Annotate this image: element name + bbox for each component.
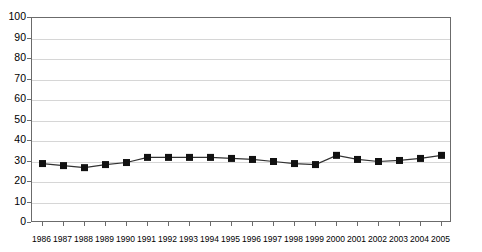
data-point-marker (186, 154, 193, 161)
x-axis-tick-mark (252, 222, 253, 226)
x-axis-tick-label: 2003 (388, 235, 410, 244)
x-axis-tick-label: 1989 (94, 235, 116, 244)
x-axis-tick-label: 1991 (136, 235, 158, 244)
data-point-marker (102, 161, 109, 168)
x-axis-tick-mark (84, 222, 85, 226)
data-point-marker (270, 158, 277, 165)
x-axis-tick-label: 1990 (115, 235, 137, 244)
y-axis-tick-label: 80 (0, 52, 26, 63)
x-axis-tick-label: 1999 (304, 235, 326, 244)
plot-area (31, 17, 451, 222)
x-axis-tick-mark (105, 222, 106, 226)
data-point-marker (165, 154, 172, 161)
x-axis-tick-mark (357, 222, 358, 226)
data-point-marker (123, 159, 130, 166)
x-axis-tick-label: 2002 (367, 235, 389, 244)
y-axis-tick-label: 20 (0, 175, 26, 186)
x-axis-tick-mark (420, 222, 421, 226)
x-axis-tick-mark (441, 222, 442, 226)
x-axis-tick-label: 1994 (199, 235, 221, 244)
x-axis-tick-mark (189, 222, 190, 226)
y-axis-tick-label: 40 (0, 134, 26, 145)
x-axis-tick-mark (294, 222, 295, 226)
y-axis-tick-label: 60 (0, 93, 26, 104)
x-axis-tick-label: 1996 (241, 235, 263, 244)
x-axis-tick-label: 1992 (157, 235, 179, 244)
data-point-marker (417, 155, 424, 162)
x-axis-tick-label: 1986 (31, 235, 53, 244)
x-axis-tick-label: 1993 (178, 235, 200, 244)
x-axis-tick-mark (126, 222, 127, 226)
data-point-marker (375, 158, 382, 165)
x-axis-tick-label: 2005 (430, 235, 452, 244)
data-point-marker (354, 156, 361, 163)
x-axis-tick-mark (231, 222, 232, 226)
series-layer (32, 18, 452, 223)
x-axis-tick-label: 1995 (220, 235, 242, 244)
x-axis-tick-mark (315, 222, 316, 226)
data-point-marker (333, 152, 340, 159)
x-axis-tick-mark (399, 222, 400, 226)
data-point-marker (60, 162, 67, 169)
x-axis-tick-label: 1998 (283, 235, 305, 244)
data-point-marker (312, 161, 319, 168)
data-point-marker (438, 152, 445, 159)
x-axis-tick-mark (378, 222, 379, 226)
data-point-marker (228, 155, 235, 162)
x-axis-tick-mark (147, 222, 148, 226)
data-point-marker (144, 154, 151, 161)
data-point-marker (291, 160, 298, 167)
x-axis-tick-mark (168, 222, 169, 226)
x-axis-tick-mark (273, 222, 274, 226)
x-axis-tick-label: 1988 (73, 235, 95, 244)
x-axis-tick-label: 1987 (52, 235, 74, 244)
data-point-marker (396, 157, 403, 164)
y-axis-tick-label: 100 (0, 11, 26, 22)
y-axis-tick-label: 50 (0, 114, 26, 125)
x-axis-tick-label: 1997 (262, 235, 284, 244)
y-axis-tick-label: 0 (0, 216, 26, 227)
y-axis-tick-label: 10 (0, 196, 26, 207)
x-axis-tick-label: 2004 (409, 235, 431, 244)
data-point-marker (207, 154, 214, 161)
y-axis-tick-label: 30 (0, 155, 26, 166)
y-axis-tick-mark (27, 222, 31, 223)
x-axis-tick-mark (336, 222, 337, 226)
x-axis-tick-label: 2000 (325, 235, 347, 244)
x-axis-tick-mark (63, 222, 64, 226)
y-axis-tick-label: 70 (0, 73, 26, 84)
data-point-marker (39, 160, 46, 167)
x-axis-tick-label: 2001 (346, 235, 368, 244)
x-axis-tick-mark (42, 222, 43, 226)
data-point-marker (81, 164, 88, 171)
line-chart: 0102030405060708090100 19861987198819891… (0, 0, 482, 252)
y-axis-tick-label: 90 (0, 32, 26, 43)
data-point-marker (249, 156, 256, 163)
x-axis-tick-mark (210, 222, 211, 226)
